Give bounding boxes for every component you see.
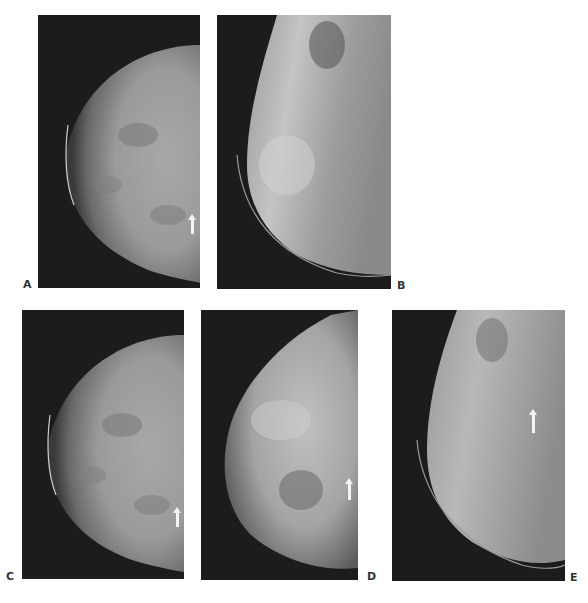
panel-label-c: C	[6, 571, 14, 582]
mammogram-panel-b	[217, 15, 391, 289]
panel-label-b: B	[397, 280, 405, 291]
arrow-indicator-a	[191, 219, 194, 234]
panel-label-d: D	[367, 571, 376, 582]
breast-tissue-d	[201, 310, 358, 580]
mammogram-panel-c	[22, 310, 184, 579]
breast-tissue-b	[217, 15, 391, 289]
breast-tissue-c	[22, 310, 184, 579]
mammogram-panel-e	[392, 310, 565, 581]
mammogram-panel-a	[38, 15, 200, 288]
panel-label-e: E	[570, 572, 578, 583]
panel-label-a: A	[23, 279, 32, 290]
arrow-indicator-d	[348, 483, 351, 500]
mammogram-panel-d	[201, 310, 358, 580]
arrow-indicator-c	[176, 512, 179, 527]
breast-tissue-e	[392, 310, 565, 581]
breast-tissue-a	[38, 15, 200, 288]
arrow-indicator-e	[532, 414, 535, 433]
